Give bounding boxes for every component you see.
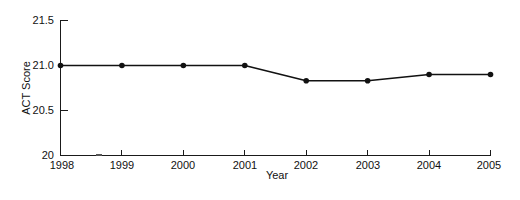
data-point-2003 xyxy=(365,78,371,84)
x-tick-label-1999: 1999 xyxy=(110,159,134,171)
data-point-1998 xyxy=(58,63,64,69)
x-tick-label-2001: 2001 xyxy=(233,159,257,171)
data-point-2005 xyxy=(488,72,494,78)
data-point-2000 xyxy=(181,63,187,69)
x-tick-label-1998: 1998 xyxy=(50,159,74,171)
scan-speck xyxy=(96,154,102,156)
x-tick-label-2000: 2000 xyxy=(171,159,195,171)
y-axis-title: ACT Score xyxy=(20,61,32,115)
x-tick-label-2004: 2004 xyxy=(417,159,441,171)
x-tick-label-2002: 2002 xyxy=(294,159,318,171)
chart-background xyxy=(0,0,520,200)
data-point-2001 xyxy=(242,63,248,69)
y-tick-label-21-0: 21.0 xyxy=(33,59,54,71)
y-tick-label-20-5: 20.5 xyxy=(33,104,54,116)
chart-figure: 21.5 21.0 20.5 20 ACT Score 1998 1999 20… xyxy=(0,0,520,200)
x-tick-label-2005: 2005 xyxy=(477,159,501,171)
data-point-1999 xyxy=(119,63,125,69)
act-score-line-chart: 21.5 21.0 20.5 20 ACT Score 1998 1999 20… xyxy=(0,0,520,200)
y-tick-label-21-5: 21.5 xyxy=(33,14,54,26)
x-tick-label-2003: 2003 xyxy=(356,159,380,171)
x-axis-title: Year xyxy=(266,169,289,181)
data-point-2004 xyxy=(426,72,432,78)
data-point-2002 xyxy=(303,78,309,84)
